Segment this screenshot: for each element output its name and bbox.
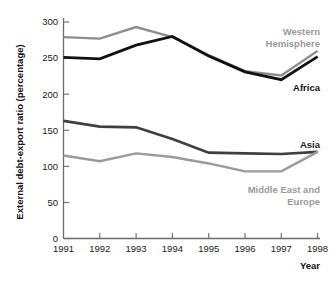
y-tick-label-300: 300 <box>42 16 58 27</box>
series-line-western-hemisphere <box>64 27 318 75</box>
line-chart: External debt-export ratio (percentage) … <box>0 0 332 281</box>
x-tick-label-1998: 1998 <box>307 243 328 254</box>
x-tick-label-1996: 1996 <box>234 243 255 254</box>
y-axis-title: External debt-export ratio (percentage) <box>14 44 25 219</box>
x-tick-label-1995: 1995 <box>198 243 219 254</box>
series-label-middle-east-line2: Europe <box>287 196 320 207</box>
series-label-middle-east-line1: Middle East and <box>248 184 321 195</box>
y-tick-label-250: 250 <box>42 52 58 63</box>
x-axis-title: Year <box>300 260 320 271</box>
x-tick-marks <box>100 233 318 239</box>
y-tick-label-50: 50 <box>47 197 58 208</box>
x-tick-label-1991: 1991 <box>53 243 74 254</box>
series-line-asia <box>64 121 318 154</box>
x-tick-label-1992: 1992 <box>89 243 110 254</box>
series-label-africa: Africa <box>293 82 321 93</box>
series-label-western-hemisphere-line2: Hemisphere <box>266 38 320 49</box>
x-tick-label-1993: 1993 <box>126 243 147 254</box>
chart-canvas: External debt-export ratio (percentage) … <box>0 0 332 281</box>
series-label-western-hemisphere-line1: Western <box>283 26 321 37</box>
y-tick-marks <box>64 22 70 239</box>
y-tick-label-100: 100 <box>42 161 58 172</box>
x-tick-label-1994: 1994 <box>162 243 183 254</box>
y-tick-label-200: 200 <box>42 89 58 100</box>
x-tick-label-1997: 1997 <box>271 243 292 254</box>
series-label-asia: Asia <box>300 139 321 150</box>
y-tick-label-150: 150 <box>42 125 58 136</box>
